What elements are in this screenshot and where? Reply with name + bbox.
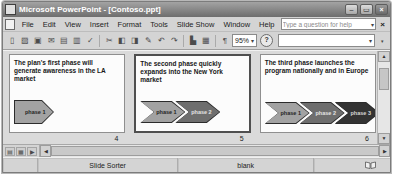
phase-1-arrow: phase 1 [14,100,54,124]
redo-icon[interactable]: ↷ [168,34,180,47]
print-preview-icon[interactable]: ▥ [71,34,83,47]
slide-4-number: 4 [9,133,125,142]
slide-sorter-area: The plan's first phase will generate awa… [3,50,390,144]
slide-6-container: The third phase launches the program nat… [260,54,376,144]
menu-file[interactable]: File [18,19,38,30]
horizontal-scrollbar[interactable]: ◀ ▶ [40,145,390,157]
slide-thumbnails: The plan's first phase will generate awa… [9,54,376,144]
spelling-book-icon [365,161,376,169]
zoom-select[interactable]: 95% ▾ [232,34,257,47]
show-formatting-icon[interactable]: ¶ [219,34,231,47]
toolbar-separator [215,35,216,47]
format-painter-icon[interactable]: ✎ [142,34,154,47]
phase-2-arrow: phase 2 [175,101,220,123]
slide-6-text: The third phase launches the program nat… [265,59,371,75]
status-left-cell [3,158,38,172]
slide-5-thumbnail[interactable]: The second phase quickly expands into th… [134,54,250,133]
menu-tools[interactable]: Tools [146,19,172,30]
dropdown-arrow-icon[interactable]: ▾ [371,21,374,28]
open-icon[interactable]: ▨ [19,34,31,47]
zoom-value: 95% [235,37,249,44]
menu-bar: File Edit View Insert Format Tools Slide… [3,17,390,32]
phase-3-arrow: phase 3 [335,102,376,124]
help-question-input[interactable]: Type a question for help ▾ [281,18,377,30]
phase-label: phase 2 [175,101,220,123]
scroll-right-icon[interactable]: ▶ [379,145,390,157]
slide-sorter-view-icon[interactable]: ▦ [16,147,26,156]
slide-4-container: The plan's first phase will generate awa… [9,54,125,144]
transition-dropdown[interactable]: ▾ [278,34,375,47]
save-icon[interactable]: ▣ [32,34,44,47]
document-menu-icon[interactable] [5,19,15,30]
view-buttons: ▤ ▦ ▶ [3,145,40,157]
email-icon[interactable]: ✉ [45,34,57,47]
toolbar-separator [99,35,100,47]
phase-label: phase 1 [14,100,54,124]
zoom-dropdown-arrow-icon[interactable]: ▾ [251,37,254,44]
slide-5-text: The second phase quickly expands into th… [140,60,244,83]
bottom-scroll-row: ▤ ▦ ▶ ◀ ▶ [3,144,390,157]
slide-5-arrows: phase 1 phase 2 [140,101,220,123]
normal-view-icon[interactable]: ▤ [5,147,15,156]
undo-icon[interactable]: ↶ [155,34,167,47]
window-controls: – ▭ × [345,4,388,15]
scroll-left-icon[interactable]: ◀ [40,145,51,157]
toolbar-options-icon[interactable]: ▾ [378,33,387,48]
vertical-scrollbar-thumb[interactable] [379,68,389,90]
slide-4-thumbnail[interactable]: The plan's first phase will generate awa… [9,54,125,133]
slide-6-thumbnail[interactable]: The third phase launches the program nat… [260,54,376,133]
restore-button[interactable]: ▭ [360,4,373,15]
status-spelling-cell [314,158,390,172]
print-icon[interactable]: ▤ [58,34,70,47]
slide-5-container: The second phase quickly expands into th… [134,54,250,144]
window-title: Microsoft PowerPoint - [Contoso.ppt] [19,5,342,14]
title-bar: Microsoft PowerPoint - [Contoso.ppt] – ▭… [3,2,390,17]
minimize-button[interactable]: – [345,4,358,15]
paste-icon[interactable]: ◨ [129,34,141,47]
toolbar-separator [183,35,184,47]
transition-dropdown-arrow-icon[interactable]: ▾ [369,37,372,44]
close-document-icon[interactable]: × [377,20,388,29]
slide-4-text: The plan's first phase will generate awa… [14,59,120,82]
help-question-placeholder: Type a question for help [283,21,371,28]
status-template-name: blank [178,158,314,172]
phase-label: phase 3 [335,102,376,124]
spelling-icon[interactable]: ✓ [84,34,96,47]
help-icon[interactable]: ? [260,34,273,47]
menu-help[interactable]: Help [255,19,278,30]
slide-6-number: 6 [260,133,376,142]
menu-insert[interactable]: Insert [86,19,113,30]
menu-edit[interactable]: Edit [39,19,60,30]
powerpoint-app-icon [5,4,16,15]
menu-format[interactable]: Format [114,19,146,30]
slide-show-view-icon[interactable]: ▶ [27,147,37,156]
chart-icon[interactable]: ▙ [187,34,199,47]
scroll-down-icon[interactable]: ▼ [378,133,390,144]
status-bar: Slide Sorter blank [3,157,390,172]
slide-4-arrows: phase 1 [14,100,54,124]
new-icon[interactable]: ▯ [6,34,18,47]
slide-6-arrows: phase 1 phase 2 phase 3 [265,102,376,124]
menu-slide-show[interactable]: Slide Show [173,19,219,30]
cut-icon[interactable]: ✂ [103,34,115,47]
menu-view[interactable]: View [61,19,85,30]
slide-5-number: 5 [134,133,250,142]
standard-toolbar: ▯ ▨ ▣ ✉ ▤ ▥ ✓ ✂ ◧ ◨ ✎ ↶ ↷ ▙ ▦ ¶ 95% ▾ ? … [3,32,390,50]
menu-window[interactable]: Window [219,19,254,30]
status-view-label: Slide Sorter [38,158,178,172]
vertical-scrollbar[interactable]: ▲ ▼ [377,51,390,144]
scroll-up-icon[interactable]: ▲ [378,51,390,62]
close-button[interactable]: × [375,4,388,15]
copy-icon[interactable]: ◧ [116,34,128,47]
horizontal-scrollbar-thumb[interactable] [51,146,379,156]
table-icon[interactable]: ▦ [200,34,212,47]
powerpoint-window: Microsoft PowerPoint - [Contoso.ppt] – ▭… [2,1,391,173]
